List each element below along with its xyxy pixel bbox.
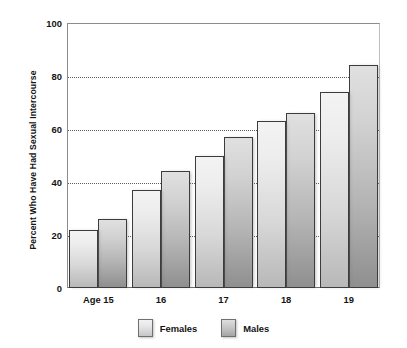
x-axis-tick-labels: Age 1516171819 (67, 294, 380, 310)
bar-males-16 (161, 171, 190, 288)
y-axis-tick-label: 0 (16, 283, 62, 294)
bar-series-layer (67, 23, 380, 288)
bar-males-19 (349, 65, 378, 288)
y-axis-tick-label: 60 (16, 124, 62, 135)
bar-males-17 (224, 137, 253, 288)
y-axis-tick-label: 80 (16, 71, 62, 82)
bar-females-19 (320, 92, 349, 288)
legend-label: Females (160, 323, 198, 334)
y-axis-tick-label: 100 (16, 18, 62, 29)
legend-entry-males[interactable]: Males (221, 319, 269, 337)
bar-males-age-15 (98, 219, 127, 288)
bar-group (195, 23, 253, 288)
legend-label: Males (243, 323, 269, 334)
chart-legend: FemalesMales (0, 319, 407, 337)
bar-group (257, 23, 315, 288)
y-axis-tick-labels: 020406080100 (10, 23, 62, 288)
y-axis-tick-label: 20 (16, 230, 62, 241)
bar-females-age-15 (69, 230, 98, 288)
x-axis-tick-label: 17 (218, 294, 228, 305)
bar-group (69, 23, 127, 288)
bar-chart-figure: Percent Who Have Had Sexual Intercourse … (0, 0, 407, 348)
y-axis-tick-label: 40 (16, 177, 62, 188)
bar-females-16 (132, 190, 161, 288)
x-axis-tick-label: Age 15 (83, 294, 114, 305)
bar-group (320, 23, 378, 288)
bar-females-17 (195, 156, 224, 289)
bar-females-18 (257, 121, 286, 288)
females-swatch (138, 319, 153, 337)
x-axis-tick-label: 19 (343, 294, 353, 305)
bar-group (132, 23, 190, 288)
bar-males-18 (286, 113, 315, 288)
legend-entry-females[interactable]: Females (138, 319, 198, 337)
x-axis-tick-label: 16 (156, 294, 166, 305)
males-swatch (221, 319, 236, 337)
x-axis-tick-label: 18 (281, 294, 291, 305)
